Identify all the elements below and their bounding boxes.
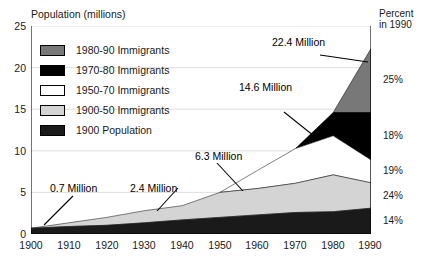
- annotation-0-7-million: 0.7 Million: [50, 182, 97, 194]
- population-immigration-area-chart: Population (millions) Percent in 1990 25…: [0, 0, 422, 270]
- leader-0-7-million: [44, 196, 73, 225]
- legend-label-1900-population: 1900 Population: [76, 124, 152, 136]
- right-axis-title-line2: in 1990: [379, 19, 412, 30]
- legend-swatch-1900-population: [40, 125, 65, 136]
- right-tick-18-percent: 18%: [383, 130, 403, 141]
- legend-item-1900-50-immigrants: 1900-50 Immigrants: [40, 104, 169, 116]
- annotation-22-4-million: 22.4 Million: [272, 36, 325, 48]
- x-tick-1980: 1980: [316, 239, 350, 251]
- right-tick-19-percent: 19%: [383, 165, 403, 176]
- x-tick-1920: 1920: [90, 239, 124, 251]
- x-tick-1900: 1900: [14, 239, 48, 251]
- leader-14-6-million: [284, 112, 319, 140]
- y-tick-15: 15: [2, 103, 26, 115]
- y-axis-title: Population (millions): [31, 8, 126, 20]
- x-tick-1940: 1940: [165, 239, 199, 251]
- legend-label-1900-50-immigrants: 1900-50 Immigrants: [76, 104, 169, 116]
- legend-item-1970-80-immigrants: 1970-80 Immigrants: [40, 64, 169, 76]
- leader-22-4-million: [320, 55, 368, 62]
- right-tick-24-percent: 24%: [383, 190, 403, 201]
- x-tick-1970: 1970: [278, 239, 312, 251]
- annotation-14-6-million: 14.6 Million: [239, 81, 292, 93]
- legend-item-1950-70-immigrants: 1950-70 Immigrants: [40, 84, 169, 96]
- legend-label-1980-90-immigrants: 1980-90 Immigrants: [76, 44, 169, 56]
- legend-label-1970-80-immigrants: 1970-80 Immigrants: [76, 64, 169, 76]
- right-tick-25-percent: 25%: [383, 74, 403, 85]
- x-tick-1910: 1910: [52, 239, 86, 251]
- legend-swatch-1970-80-immigrants: [40, 65, 65, 76]
- annotation-2-4-million: 2.4 Million: [130, 182, 177, 194]
- x-tick-1960: 1960: [240, 239, 274, 251]
- legend-swatch-1980-90-immigrants: [40, 45, 65, 56]
- legend-label-1950-70-immigrants: 1950-70 Immigrants: [76, 84, 169, 96]
- y-tick-25: 25: [2, 20, 26, 32]
- x-tick-1990: 1990: [353, 239, 387, 251]
- x-tick-1930: 1930: [127, 239, 161, 251]
- legend-item-1900-population: 1900 Population: [40, 124, 152, 136]
- annotation-6-3-million: 6.3 Million: [195, 150, 242, 162]
- right-tick-14-percent: 14%: [383, 215, 403, 226]
- y-tick-20: 20: [2, 62, 26, 74]
- legend-swatch-1900-50-immigrants: [40, 105, 65, 116]
- y-tick-5: 5: [2, 186, 26, 198]
- right-axis-title-line1: Percent: [379, 8, 413, 19]
- legend-swatch-1950-70-immigrants: [40, 85, 65, 96]
- legend-item-1980-90-immigrants: 1980-90 Immigrants: [40, 44, 169, 56]
- x-tick-1950: 1950: [203, 239, 237, 251]
- y-tick-10: 10: [2, 145, 26, 157]
